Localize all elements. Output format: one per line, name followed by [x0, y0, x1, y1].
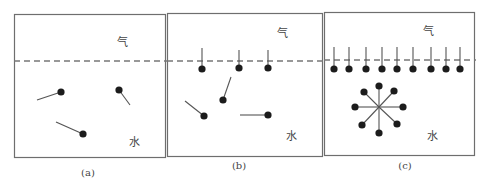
- hydrophilic-head: [390, 87, 397, 94]
- surfactant-molecule: [240, 111, 272, 118]
- hydrophilic-head: [198, 65, 205, 72]
- hydrophilic-head: [57, 88, 64, 95]
- panel-a: 气水(a): [14, 15, 167, 179]
- micelle-molecule: [379, 87, 398, 107]
- hydrophilic-head: [399, 103, 406, 110]
- surfactant-molecule: [37, 88, 65, 100]
- hydrophilic-head: [351, 103, 358, 110]
- hydrophilic-head: [375, 129, 382, 136]
- hydrophilic-head: [362, 65, 369, 72]
- air-label: 气: [117, 35, 128, 49]
- hydrophilic-head: [393, 65, 400, 72]
- panel-caption: (b): [232, 160, 246, 171]
- hydrophilic-head: [442, 65, 449, 72]
- micelle-molecule: [360, 88, 379, 107]
- micelle-molecule: [375, 82, 382, 107]
- hydrophilic-head: [79, 130, 86, 137]
- hydrophilic-head: [264, 111, 271, 118]
- hydrophilic-head: [200, 112, 207, 119]
- surfactant-molecule: [115, 86, 130, 105]
- hydrophilic-head: [393, 120, 400, 127]
- hydrophilic-head: [219, 96, 226, 103]
- surfactant-diagram: 气水(a)气水(b)气水(c): [0, 0, 485, 183]
- panel-border: [15, 15, 166, 158]
- hydrophobic-tail: [223, 77, 231, 100]
- surfactant-molecule: [56, 122, 87, 138]
- hydrophilic-head: [345, 65, 352, 72]
- micelle-molecule: [379, 107, 401, 128]
- panel-b: 气水(b): [167, 14, 324, 172]
- hydrophilic-head: [409, 65, 416, 72]
- hydrophilic-head: [264, 64, 271, 71]
- panel-caption: (c): [398, 160, 412, 171]
- water-label: 水: [427, 130, 438, 143]
- panel-c: 气水(c): [324, 13, 476, 172]
- micelle-molecule: [379, 103, 407, 110]
- micelle-molecule: [358, 107, 379, 129]
- hydrophilic-head: [358, 121, 365, 128]
- surfactant-molecule: [219, 77, 231, 104]
- water-label: 水: [129, 136, 140, 149]
- hydrophilic-head: [330, 65, 337, 72]
- hydrophobic-tail: [185, 101, 204, 116]
- hydrophobic-tail: [37, 92, 61, 100]
- air-label: 气: [277, 26, 288, 40]
- diagram-canvas: 气水(a)气水(b)气水(c): [0, 0, 485, 183]
- hydrophilic-head: [456, 65, 463, 72]
- surfactant-molecule: [198, 48, 205, 73]
- water-label: 水: [286, 130, 297, 143]
- hydrophobic-tail: [379, 107, 397, 124]
- hydrophilic-head: [115, 86, 122, 93]
- hydrophilic-head: [427, 65, 434, 72]
- hydrophilic-head: [360, 88, 367, 95]
- hydrophobic-tail: [362, 107, 379, 125]
- hydrophobic-tail: [56, 122, 83, 134]
- panel-caption: (a): [81, 167, 95, 178]
- hydrophilic-head: [378, 65, 385, 72]
- micelle: [351, 82, 406, 136]
- micelle-molecule: [351, 103, 379, 110]
- hydrophilic-head: [375, 82, 382, 89]
- panel-border: [325, 13, 475, 156]
- surfactant-molecule: [185, 101, 208, 120]
- micelle-molecule: [375, 107, 382, 137]
- air-label: 气: [423, 24, 434, 38]
- hydrophilic-head: [235, 64, 242, 71]
- panel-border: [168, 14, 323, 157]
